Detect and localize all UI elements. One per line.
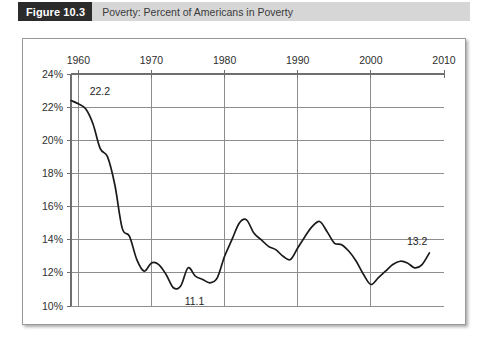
data-point-label: 11.1 [185,295,205,307]
grid-lines [71,74,444,306]
poverty-rate-line [71,101,429,289]
data-point-labels: 22.211.113.2 [90,85,428,307]
y-tick-label: 24% [42,68,63,80]
y-tick-label: 16% [42,200,63,212]
y-tick-label: 18% [42,167,63,179]
figure-caption-band: Figure 10.3 Poverty: Percent of American… [18,2,470,21]
x-tick-label: 2010 [432,54,456,66]
chart-plot-area: 10%12%14%16%18%20%22%24% 196019701980199… [23,39,467,326]
axes [71,74,444,306]
x-tick-label: 1970 [140,54,164,66]
y-tick-label: 12% [42,266,63,278]
x-tick-label: 1960 [67,54,91,66]
chart-card: 10%12%14%16%18%20%22%24% 196019701980199… [22,38,466,325]
y-tick-marks [67,74,71,306]
figure-number-badge: Figure 10.3 [18,2,92,21]
data-point-label: 13.2 [407,235,428,247]
x-tick-label: 2000 [359,54,383,66]
x-tick-label: 1980 [213,54,237,66]
y-tick-label: 22% [42,101,63,113]
figure-caption-text: Poverty: Percent of Americans in Poverty [92,2,293,21]
x-tick-labels: 196019701980199020002010 [67,54,456,66]
y-tick-label: 20% [42,134,63,146]
data-point-label: 22.2 [90,85,111,97]
y-tick-label: 14% [42,233,63,245]
y-tick-label: 10% [42,300,63,312]
poverty-line-chart: 10%12%14%16%18%20%22%24% 196019701980199… [23,39,467,326]
y-tick-labels: 10%12%14%16%18%20%22%24% [42,68,63,312]
x-tick-label: 1990 [286,54,310,66]
